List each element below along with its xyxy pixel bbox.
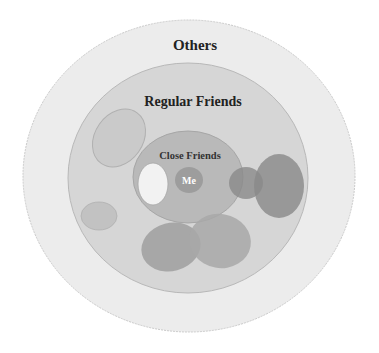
group-small-left [81,202,117,230]
close-friends-label: Close Friends [159,150,221,161]
others-label: Others [173,37,217,53]
group-right-small [229,167,263,199]
regular-friends-label: Regular Friends [144,94,242,109]
social-circles-diagram: Others Regular Friends Close Friends Me [0,0,379,353]
group-white-inner [138,163,168,205]
me-label: Me [182,175,196,186]
